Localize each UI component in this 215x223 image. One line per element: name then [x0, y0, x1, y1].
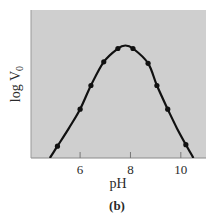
x-axis-label: pH — [109, 176, 126, 191]
data-point — [145, 61, 150, 66]
panel-label: (b) — [109, 198, 125, 213]
y-axis-label-main: log V — [8, 71, 23, 102]
x-axis-tick-labels: 6810 — [77, 162, 187, 177]
x-tick-label: 6 — [77, 162, 84, 177]
x-tick-label: 10 — [174, 162, 187, 177]
data-point — [78, 107, 83, 112]
data-point — [165, 107, 170, 112]
data-point — [183, 142, 188, 147]
chart: 6810 pH log V0 (b) — [0, 0, 215, 223]
data-point — [88, 83, 93, 88]
x-tick-label: 8 — [127, 162, 134, 177]
data-point — [154, 83, 159, 88]
y-axis-label: log V0 — [8, 66, 25, 102]
data-point — [101, 59, 106, 64]
y-axis-label-subscript: 0 — [14, 66, 25, 71]
data-point — [130, 46, 135, 51]
data-point — [115, 46, 120, 51]
data-point — [55, 144, 60, 149]
